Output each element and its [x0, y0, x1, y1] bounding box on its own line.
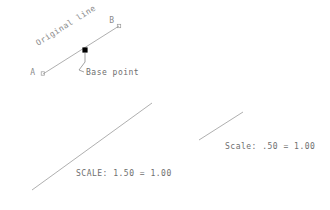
scaled-down-line-group: Scale: .50 = 1.00 [199, 112, 315, 151]
base-point-marker [82, 47, 87, 52]
base-point-label: Base point [86, 68, 139, 77]
base-point-leader-line [79, 53, 85, 72]
original-line-annotation: Original line [34, 3, 97, 47]
scale-up-label: SCALE: 1.50 = 1.00 [76, 169, 172, 178]
diagram-canvas: A B Original line Base point SCALE: 1.50… [0, 0, 330, 210]
scale-down-label: Scale: .50 = 1.00 [225, 142, 315, 151]
cad-drawing: A B Original line Base point SCALE: 1.50… [0, 0, 330, 210]
original-line-group: A B Original line Base point [30, 3, 139, 77]
scaled-up-line-group: SCALE: 1.50 = 1.00 [32, 103, 172, 190]
label-point-a: A [30, 68, 35, 77]
scaled-down-line-segment [199, 112, 243, 140]
label-point-b: B [109, 16, 114, 25]
